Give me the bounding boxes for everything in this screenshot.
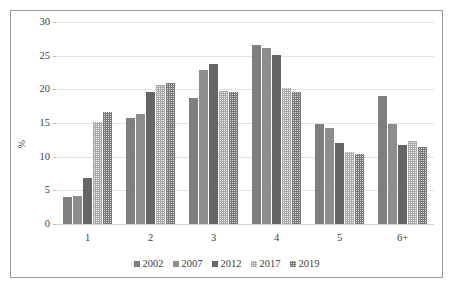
bar bbox=[335, 143, 344, 224]
bar bbox=[166, 83, 175, 224]
legend-item[interactable]: 2017 bbox=[251, 259, 281, 270]
legend-swatch-icon bbox=[173, 261, 179, 267]
legend-swatch-icon bbox=[290, 261, 296, 267]
bar bbox=[282, 88, 291, 224]
bar bbox=[262, 48, 271, 224]
plot-area: 051015202530 123456+ bbox=[56, 22, 434, 224]
y-axis-title: % bbox=[16, 140, 27, 148]
bar bbox=[252, 45, 261, 224]
bar-groups: 123456+ bbox=[56, 22, 434, 224]
x-axis-tick-label: 1 bbox=[56, 232, 119, 243]
bar bbox=[315, 124, 324, 224]
bar bbox=[103, 112, 112, 224]
chart-frame: % 051015202530 123456+ 20022007201220172… bbox=[10, 10, 443, 278]
y-axis-tick-label: 20 bbox=[40, 84, 51, 95]
y-axis-tick-label: 30 bbox=[40, 17, 51, 28]
y-axis-tick-label: 0 bbox=[45, 219, 50, 230]
x-axis-tick-label: 5 bbox=[308, 232, 371, 243]
bar bbox=[156, 85, 165, 224]
bar bbox=[355, 154, 364, 224]
y-axis-tick-label: 15 bbox=[40, 118, 51, 129]
legend-label: 2019 bbox=[299, 259, 320, 270]
bar bbox=[418, 147, 427, 224]
bar-group: 2 bbox=[119, 22, 182, 224]
bar bbox=[83, 178, 92, 224]
bar bbox=[388, 124, 397, 224]
bar bbox=[136, 114, 145, 224]
legend-item[interactable]: 2019 bbox=[290, 259, 320, 270]
y-axis-tick-label: 5 bbox=[45, 185, 50, 196]
bar bbox=[229, 92, 238, 224]
legend-label: 2012 bbox=[221, 259, 242, 270]
chart-legend: 20022007201220172019 bbox=[11, 259, 442, 270]
y-axis-tick-label: 10 bbox=[40, 151, 51, 162]
bar bbox=[199, 70, 208, 224]
y-axis-tick-mark bbox=[53, 224, 56, 225]
bar bbox=[325, 128, 334, 224]
bar bbox=[272, 55, 281, 224]
bar-group: 6+ bbox=[371, 22, 434, 224]
legend-item[interactable]: 2002 bbox=[134, 259, 164, 270]
y-axis-tick-label: 25 bbox=[40, 50, 51, 61]
legend-swatch-icon bbox=[251, 261, 257, 267]
bar-group: 5 bbox=[308, 22, 371, 224]
bar bbox=[126, 118, 135, 224]
bar bbox=[408, 141, 417, 224]
bar bbox=[209, 64, 218, 224]
bar bbox=[378, 96, 387, 224]
x-axis-tick-label: 6+ bbox=[371, 232, 434, 243]
x-axis-tick-label: 3 bbox=[182, 232, 245, 243]
bar bbox=[292, 92, 301, 224]
bar bbox=[398, 145, 407, 224]
bar bbox=[93, 122, 102, 224]
bar bbox=[146, 92, 155, 224]
bar-group: 4 bbox=[245, 22, 308, 224]
legend-label: 2002 bbox=[143, 259, 164, 270]
gridline bbox=[56, 224, 434, 225]
bar bbox=[345, 152, 354, 224]
x-axis-tick-label: 4 bbox=[245, 232, 308, 243]
bar-group: 1 bbox=[56, 22, 119, 224]
bar bbox=[189, 98, 198, 224]
legend-item[interactable]: 2012 bbox=[212, 259, 242, 270]
legend-swatch-icon bbox=[134, 261, 140, 267]
bar bbox=[63, 197, 72, 224]
legend-item[interactable]: 2007 bbox=[173, 259, 203, 270]
x-axis-tick-label: 2 bbox=[119, 232, 182, 243]
bar-group: 3 bbox=[182, 22, 245, 224]
legend-swatch-icon bbox=[212, 261, 218, 267]
legend-label: 2017 bbox=[260, 259, 281, 270]
bar bbox=[219, 91, 228, 224]
bar bbox=[73, 196, 82, 224]
legend-label: 2007 bbox=[182, 259, 203, 270]
